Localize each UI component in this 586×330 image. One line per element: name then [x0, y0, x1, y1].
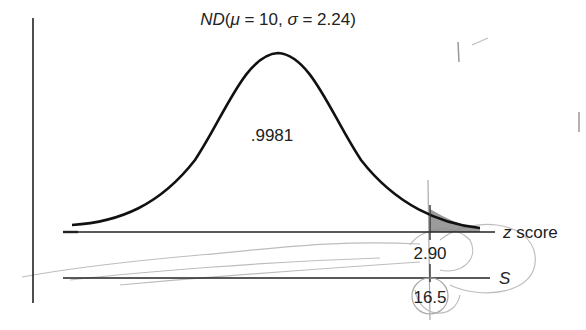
z-cutoff-value: 2.90: [413, 244, 446, 263]
normal-distribution-diagram: ND(μ = 10, σ = 2.24) .9981 z score 2.90 …: [0, 0, 586, 330]
s-axis-label: S: [499, 269, 511, 288]
s-cutoff-value: 16.5: [413, 288, 446, 307]
shaded-tail-region: [430, 209, 480, 232]
distribution-title: ND(μ = 10, σ = 2.24): [200, 10, 356, 29]
area-label: .9981: [251, 126, 294, 145]
z-axis-label: z score: [502, 223, 558, 242]
